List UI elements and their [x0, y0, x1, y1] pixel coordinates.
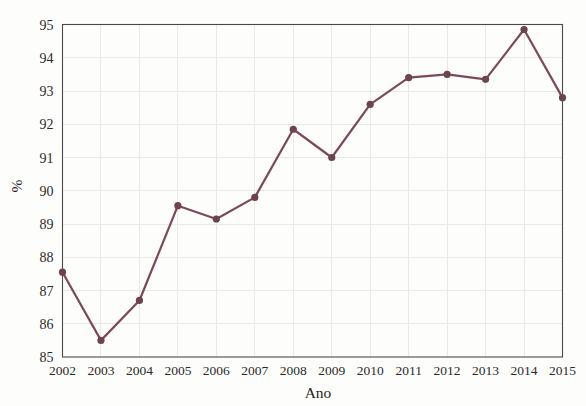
x-tick-label: 2008: [280, 363, 307, 378]
data-point: [97, 337, 104, 344]
x-tick-label: 2010: [357, 363, 384, 378]
y-axis-tick-labels: 8586878889909192939495: [40, 18, 54, 366]
x-tick-label: 2007: [241, 363, 268, 378]
data-point: [520, 26, 527, 33]
y-tick-label: 95: [40, 18, 54, 33]
y-axis-title: %: [8, 179, 25, 192]
y-tick-label: 89: [40, 217, 54, 232]
x-tick-label: 2012: [434, 363, 461, 378]
y-tick-label: 92: [40, 117, 54, 132]
x-tick-label: 2014: [511, 363, 538, 378]
line-chart: 8586878889909192939495 20022003200420052…: [0, 0, 586, 406]
y-gridlines: [63, 58, 563, 324]
x-tick-label: 2004: [126, 363, 153, 378]
x-tick-label: 2003: [87, 363, 114, 378]
x-tick-label: 2011: [395, 363, 422, 378]
data-point: [290, 126, 297, 133]
data-series-line: [63, 29, 563, 340]
data-point: [444, 71, 451, 78]
x-axis-tick-labels: 2002200320042005200620072008200920102011…: [49, 363, 576, 378]
data-point: [251, 194, 258, 201]
data-point: [405, 74, 412, 81]
x-tick-label: 2013: [472, 363, 499, 378]
y-tick-label: 86: [40, 317, 54, 332]
x-tick-label: 2015: [549, 363, 576, 378]
data-point: [136, 297, 143, 304]
x-tick-label: 2002: [49, 363, 76, 378]
data-point: [59, 269, 66, 276]
x-tick-label: 2009: [318, 363, 345, 378]
y-tick-label: 90: [40, 184, 54, 199]
data-point: [328, 154, 335, 161]
x-tick-label: 2006: [203, 363, 230, 378]
data-point: [559, 94, 566, 101]
data-point: [367, 101, 374, 108]
x-axis-title: Ano: [305, 384, 332, 401]
x-tick-label: 2005: [164, 363, 191, 378]
chart-container: 8586878889909192939495 20022003200420052…: [0, 0, 586, 406]
y-tick-label: 88: [40, 250, 54, 265]
data-point: [174, 202, 181, 209]
data-point: [213, 215, 220, 222]
y-tick-label: 93: [40, 84, 54, 99]
data-point: [482, 76, 489, 83]
y-tick-label: 91: [40, 151, 54, 166]
y-tick-label: 87: [40, 284, 54, 299]
y-tick-label: 94: [40, 51, 54, 66]
